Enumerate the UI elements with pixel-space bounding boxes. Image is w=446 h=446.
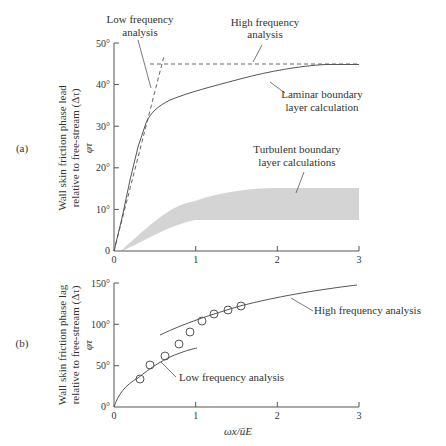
a-xtick-3: 3 [357,254,362,265]
b-ytick-0: 0° [101,401,110,412]
b-xtick-2: 2 [275,410,280,421]
a-ytick-30: 30° [96,121,110,132]
svg-text:φτ: φτ [82,142,94,153]
b-ytick-100: 100° [91,319,110,330]
a-ytick-20: 20° [96,162,110,173]
b-low-leader [161,362,176,377]
svg-text:relative to free-stream (Δτ): relative to free-stream (Δτ) [69,285,82,404]
a-ytick-50: 50° [96,38,110,49]
b-xtick-0: 0 [112,410,117,421]
a-ytick-40: 40° [96,79,110,90]
svg-text:φτ: φτ [82,339,94,350]
a-y-ticks: 0 10° 20° 30° 40° 50° [96,38,119,256]
a-laminar-label: Laminar boundary [281,88,363,100]
a-low-frequency-label: Low frequency [107,13,174,25]
a-turbulent-label-2: layer calculations [258,156,335,168]
svg-text:Wall skin friction phase lag: Wall skin friction phase lag [56,284,68,405]
a-low-frequency-label-2: analysis [122,26,157,38]
b-ytick-150: 150° [91,278,110,289]
a-x-ticks: 0 1 2 3 [112,246,362,265]
b-ytick-50: 50° [96,360,110,371]
b-high-frequency-label: High frequency analysis [314,304,421,316]
a-high-leader [253,45,262,62]
x-axis-label: ωx/ūE [224,425,252,437]
a-xtick-1: 1 [193,254,198,265]
panel-b-label: (b) [16,337,29,350]
a-high-frequency-label-2: analysis [247,28,282,40]
a-turbulent-label: Turbulent boundary [253,143,341,155]
a-laminar-label-2: layer calculation [286,101,359,113]
a-ytick-10: 10° [96,204,110,215]
svg-text:Wall skin friction phase lead: Wall skin friction phase lead [56,85,68,211]
panel-a: 0 10° 20° 30° 40° 50° 0 1 2 3 Low freque… [16,13,363,265]
turbulent-band [122,188,359,251]
a-high-frequency-label: High frequency [231,16,300,28]
panel-b: 0° 50° 100° 150° 0 1 2 3 [16,278,421,437]
a-xtick-2: 2 [275,254,280,265]
b-high-leader [291,298,313,311]
a-y-axis-label: Wall skin friction phase lead relative t… [56,85,94,211]
a-xtick-0: 0 [112,254,117,265]
b-xtick-1: 1 [193,410,198,421]
b-x-ticks: 0 1 2 3 [112,402,362,421]
a-ytick-0: 0 [105,245,110,256]
b-low-frequency-label: Low frequency analysis [179,371,284,383]
b-y-axis-label: Wall skin friction phase lag relative to… [56,284,94,405]
a-low-leader [138,40,151,88]
b-xtick-3: 3 [357,410,362,421]
svg-text:relative to free-stream (Δτ): relative to free-stream (Δτ) [69,88,82,207]
figure: 0 10° 20° 30° 40° 50° 0 1 2 3 Low freque… [0,0,446,446]
panel-a-label: (a) [16,142,29,155]
b-y-ticks: 0° 50° 100° 150° [91,278,119,412]
